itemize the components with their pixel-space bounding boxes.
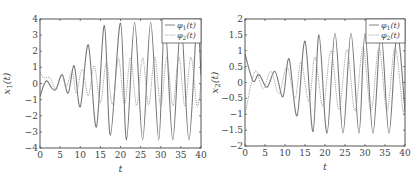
x-tick-label: 15 <box>299 148 311 158</box>
x-tick-label: 15 <box>95 150 107 160</box>
y-tick-label: 4 <box>32 14 38 24</box>
y-tick-label: 3 <box>32 30 38 40</box>
x-axis-label: t <box>323 161 328 172</box>
y-tick-label: 0.5 <box>229 62 244 72</box>
series-line-1 <box>245 33 405 133</box>
y-axis-label: x1(t) <box>1 72 14 94</box>
y-tick-label: 1 <box>237 46 243 56</box>
x-tick-label: 35 <box>379 148 391 158</box>
y-tick-label: −2 <box>230 141 243 151</box>
y-tick-label: −1.5 <box>221 125 243 135</box>
x-tick-label: 0 <box>37 150 43 160</box>
x-tick-label: 5 <box>57 150 63 160</box>
y-tick-label: −1 <box>230 109 243 119</box>
y-axis-label: x2(t) <box>210 71 222 93</box>
y-tick-label: 2 <box>237 14 243 24</box>
x-tick-label: 30 <box>155 150 167 160</box>
y-tick-label: −3 <box>25 127 39 137</box>
series-line-2 <box>245 48 405 115</box>
x-tick-label: 25 <box>339 148 351 158</box>
x-tick-label: 35 <box>175 150 187 160</box>
legend-label-1: φ1(t) <box>381 21 400 31</box>
chart-panel-x1: 051015202530354043210−1−2−3−4tx1(t)φ1(t)… <box>0 0 210 179</box>
y-tick-label: 0 <box>237 78 243 88</box>
y-tick-label: −4 <box>25 143 39 153</box>
legend: φ1(t)φ2(t) <box>162 19 201 43</box>
x-tick-label: 5 <box>262 148 268 158</box>
x-tick-label: 20 <box>115 150 127 160</box>
legend: φ1(t)φ2(t) <box>366 19 405 43</box>
x-tick-label: 0 <box>242 148 248 158</box>
x-tick-label: 10 <box>279 148 291 158</box>
legend-label-2: φ2(t) <box>177 31 196 41</box>
x-tick-label: 40 <box>399 148 411 158</box>
x-tick-label: 30 <box>359 148 371 158</box>
y-tick-label: 1.5 <box>229 30 244 40</box>
x-tick-label: 25 <box>135 150 147 160</box>
y-tick-label: −0.5 <box>221 93 243 103</box>
chart-panel-x2: 051015202530354021.510.50−0.5−1−1.5−2tx2… <box>210 0 420 179</box>
x-tick-label: 20 <box>319 148 331 158</box>
chart-x1-svg: 051015202530354043210−1−2−3−4tx1(t)φ1(t)… <box>0 0 210 179</box>
y-tick-label: 2 <box>32 46 38 56</box>
y-tick-label: 1 <box>32 62 38 72</box>
y-tick-label: 0 <box>32 79 38 89</box>
chart-x2-svg: 051015202530354021.510.50−0.5−1−1.5−2tx2… <box>210 0 420 179</box>
y-tick-label: −2 <box>25 111 38 121</box>
x-tick-label: 40 <box>195 150 207 160</box>
y-tick-label: −1 <box>25 95 38 105</box>
legend-label-2: φ2(t) <box>381 31 400 41</box>
legend-label-1: φ1(t) <box>177 21 196 31</box>
x-tick-label: 10 <box>75 150 87 160</box>
x-axis-label: t <box>118 163 123 174</box>
